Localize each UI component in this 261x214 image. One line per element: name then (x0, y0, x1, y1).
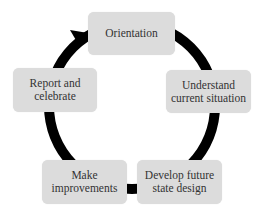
step-make-improvements: Make improvements (42, 160, 127, 204)
step-label-line: Orientation (105, 27, 157, 40)
step-label-line: Report and (30, 77, 81, 90)
step-label-line: current situation (171, 92, 246, 105)
step-develop-future-state-design: Develop future state design (137, 160, 222, 204)
step-report-and-celebrate: Report and celebrate (13, 68, 97, 112)
step-label-line: improvements (52, 182, 118, 195)
step-label-line: Understand (171, 79, 246, 92)
step-label-line: celebrate (30, 90, 81, 103)
step-label-line: Develop future (145, 169, 214, 182)
step-orientation: Orientation (88, 12, 175, 55)
step-label-line: state design (145, 182, 214, 195)
step-understand-current-situation: Understand current situation (166, 70, 251, 113)
step-label-line: Make (52, 169, 118, 182)
